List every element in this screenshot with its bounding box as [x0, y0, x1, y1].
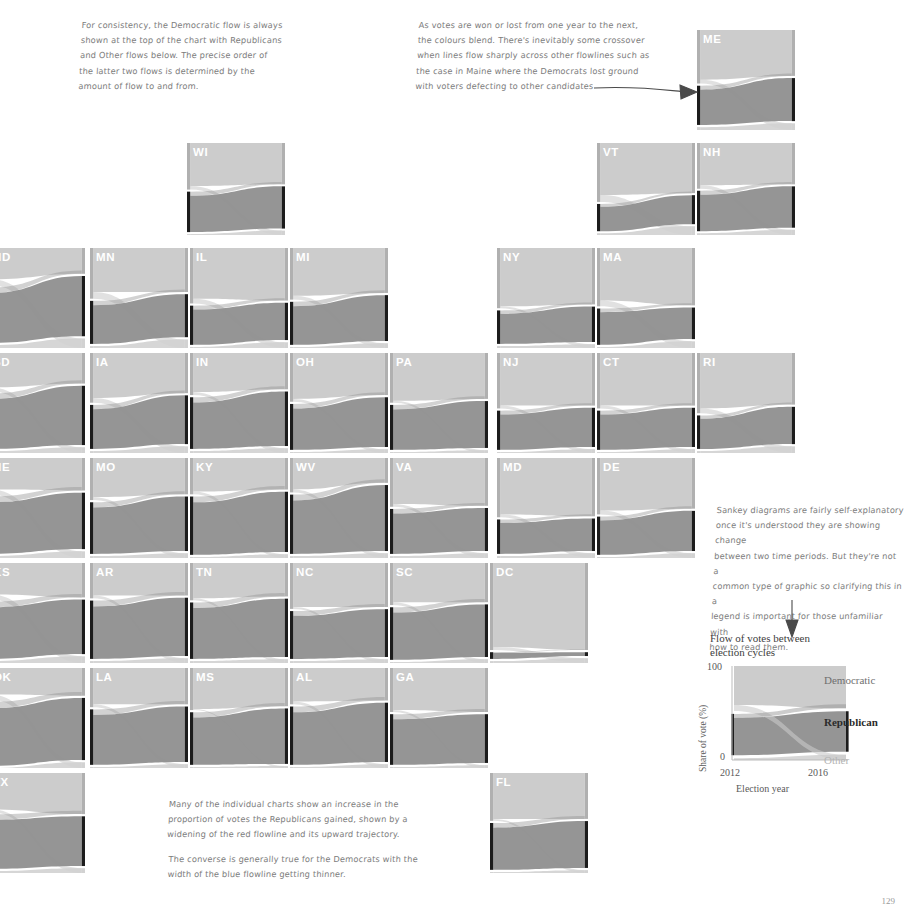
state-sankey-ny[interactable]: NY	[497, 248, 595, 348]
state-sankey-wi[interactable]: WI	[187, 143, 285, 235]
note-democrat-loss: The converse is generally true for the D…	[167, 852, 459, 882]
legend-x-axis-label: Election year	[736, 783, 789, 794]
state-sankey-nh[interactable]: NH	[697, 143, 795, 235]
state-sankey-de[interactable]: DE	[597, 458, 695, 558]
legend-flow-democratic	[734, 666, 846, 708]
state-sankey-sc[interactable]: SC	[390, 563, 488, 663]
state-sankey-me[interactable]: ME	[697, 30, 795, 130]
state-sankey-ms[interactable]: MS	[190, 668, 288, 768]
legend-label-democratic: Democratic	[824, 674, 875, 686]
state-sankey-wv[interactable]: WV	[290, 458, 388, 558]
note-maine-crossover: As votes are won or lost from one year t…	[415, 18, 694, 94]
state-sankey-in[interactable]: IN	[190, 353, 288, 453]
state-sankey-ok[interactable]: OK	[0, 668, 85, 768]
state-sankey-ma[interactable]: MA	[597, 248, 695, 348]
page-number: 129	[882, 896, 896, 906]
state-sankey-ks[interactable]: KS	[0, 563, 85, 663]
legend-label-republican: Republican	[824, 716, 878, 728]
legend-x-tick-2016: 2016	[808, 767, 828, 778]
state-sankey-ia[interactable]: IA	[90, 353, 188, 453]
state-sankey-fl[interactable]: FL	[490, 773, 588, 873]
state-sankey-la[interactable]: LA	[90, 668, 188, 768]
state-sankey-md[interactable]: MD	[497, 458, 595, 558]
state-sankey-dc[interactable]: DC	[490, 563, 588, 663]
state-sankey-vt[interactable]: VT	[597, 143, 695, 235]
state-sankey-il[interactable]: IL	[190, 248, 288, 348]
state-sankey-mo[interactable]: MO	[90, 458, 188, 558]
legend-panel: Flow of votes between election cycles Sh…	[700, 632, 900, 807]
state-sankey-tx[interactable]: TX	[0, 773, 85, 873]
state-sankey-ne[interactable]: NE	[0, 458, 85, 558]
state-sankey-mn[interactable]: MN	[90, 248, 188, 348]
state-sankey-nd[interactable]: ND	[0, 248, 85, 348]
state-sankey-ri[interactable]: RI	[697, 353, 795, 453]
state-sankey-oh[interactable]: OH	[290, 353, 388, 453]
state-sankey-va[interactable]: VA	[390, 458, 488, 558]
state-sankey-nc[interactable]: NC	[290, 563, 388, 663]
note-republican-gain: Many of the individual charts show an in…	[167, 797, 459, 843]
state-sankey-pa[interactable]: PA	[390, 353, 488, 453]
state-sankey-ar[interactable]: AR	[90, 563, 188, 663]
state-sankey-ga[interactable]: GA	[390, 668, 488, 768]
state-sankey-al[interactable]: AL	[290, 668, 388, 768]
state-sankey-mi[interactable]: MI	[290, 248, 388, 348]
state-sankey-tn[interactable]: TN	[190, 563, 288, 663]
legend-x-tick-2012: 2012	[720, 767, 740, 778]
state-sankey-sd[interactable]: SD	[0, 353, 85, 453]
note-consistency: For consistency, the Democratic flow is …	[78, 18, 382, 94]
legend-label-other: Other	[824, 754, 849, 766]
state-sankey-ct[interactable]: CT	[597, 353, 695, 453]
state-sankey-ky[interactable]: KY	[190, 458, 288, 558]
state-sankey-nj[interactable]: NJ	[497, 353, 595, 453]
